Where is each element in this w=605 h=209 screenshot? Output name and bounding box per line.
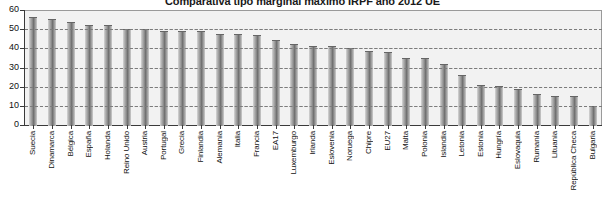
x-axis-category-label: EU27	[384, 131, 392, 151]
bar	[290, 44, 298, 126]
y-axis-tick-label: 20	[0, 82, 19, 91]
x-axis-tick-mark	[164, 125, 165, 129]
bar	[328, 46, 336, 126]
x-axis-category-label: República Checa	[570, 131, 578, 190]
x-axis-category-label: Portugal	[160, 131, 168, 160]
x-axis-category-label: Rumanía	[533, 131, 541, 163]
x-axis-tick-mark	[89, 125, 90, 129]
x-axis-category-label: Bulgaria	[589, 131, 597, 160]
bar	[570, 96, 578, 126]
bar	[123, 29, 131, 126]
x-axis-category-label: España	[85, 131, 93, 158]
x-axis-tick-mark	[444, 125, 445, 129]
x-axis-category-label: Lituania	[551, 131, 559, 158]
x-axis-category-label: Noruega	[346, 131, 354, 161]
bar	[216, 34, 224, 126]
bar	[514, 89, 522, 126]
bars-series	[24, 10, 602, 126]
bar	[421, 58, 429, 126]
x-axis-category-label: Eslovaquia	[514, 131, 522, 169]
bar	[253, 35, 261, 126]
bar	[533, 94, 541, 126]
x-axis-tick-mark	[127, 125, 128, 129]
y-axis-tick-label: 0	[0, 120, 19, 129]
x-axis-category-label: Luxemburgo	[290, 131, 298, 174]
x-axis-tick-mark	[238, 125, 239, 129]
x-axis-category-label: Holanda	[104, 131, 112, 160]
bar	[197, 31, 205, 126]
y-axis-tick-label: 10	[0, 101, 19, 110]
x-axis-category-label: Hungría	[495, 131, 503, 159]
x-axis-category-label: Francia	[253, 131, 261, 157]
bar	[48, 19, 56, 126]
y-axis-tick-label: 30	[0, 63, 19, 72]
bar	[495, 86, 503, 126]
bar	[309, 46, 317, 126]
x-axis-tick-mark	[555, 125, 556, 129]
bar	[234, 34, 242, 126]
x-axis-category-label: Estonia	[477, 131, 485, 157]
x-axis-category-label: Letonia	[458, 131, 466, 157]
chart-title: Comparativa tipo marginal máximo IRPF añ…	[0, 0, 605, 7]
x-axis-category-label: Grecia	[178, 131, 186, 154]
x-axis-category-label: EA17	[272, 131, 280, 150]
x-axis-tick-mark	[294, 125, 295, 129]
x-axis-tick-mark	[108, 125, 109, 129]
chart-container: Comparativa tipo marginal máximo IRPF añ…	[0, 0, 605, 209]
x-axis-category-label: Irlanda	[309, 131, 317, 155]
x-axis-tick-mark	[145, 125, 146, 129]
x-axis-tick-mark	[257, 125, 258, 129]
x-axis-tick-mark	[201, 125, 202, 129]
y-axis-tick-label: 50	[0, 24, 19, 33]
x-axis-category-label: Dinamarca	[48, 131, 56, 169]
bar	[458, 75, 466, 126]
x-axis-tick-mark	[425, 125, 426, 129]
bar	[551, 96, 559, 126]
bar	[384, 52, 392, 126]
bar	[67, 22, 75, 126]
bar	[272, 40, 280, 126]
x-axis-tick-mark	[71, 125, 72, 129]
bar	[589, 106, 597, 126]
bar	[178, 31, 186, 126]
x-axis-tick-mark	[220, 125, 221, 129]
x-axis-category-label: Finlandia	[197, 131, 205, 163]
bar	[402, 58, 410, 126]
x-axis-category-label: Italia	[234, 131, 242, 147]
x-axis-tick-mark	[350, 125, 351, 129]
x-axis-tick-mark	[406, 125, 407, 129]
x-axis-category-label: Reino Unido	[123, 131, 131, 174]
x-axis-category-label: Austria	[141, 131, 149, 155]
x-axis-category-label: Alemania	[216, 131, 224, 164]
x-axis-tick-mark	[276, 125, 277, 129]
bar	[477, 85, 485, 126]
x-axis-category-label: Eslovenia	[328, 131, 336, 165]
x-axis-tick-mark	[182, 125, 183, 129]
x-axis-category-label: Chipre	[365, 131, 373, 154]
x-axis-tick-mark	[52, 125, 53, 129]
bar	[440, 64, 448, 126]
bar	[85, 25, 93, 126]
x-axis-tick-mark	[574, 125, 575, 129]
x-axis-category-label: Malta	[402, 131, 410, 150]
bar	[104, 25, 112, 126]
x-axis-tick-mark	[499, 125, 500, 129]
bar	[29, 17, 37, 126]
x-axis-tick-mark	[388, 125, 389, 129]
bar	[141, 29, 149, 126]
x-axis-tick-mark	[313, 125, 314, 129]
x-axis-tick-mark	[33, 125, 34, 129]
y-axis-tick-label: 40	[0, 43, 19, 52]
x-axis-tick-mark	[462, 125, 463, 129]
x-axis-tick-mark	[518, 125, 519, 129]
bar	[365, 51, 373, 126]
x-axis-tick-mark	[537, 125, 538, 129]
x-axis-tick-mark	[332, 125, 333, 129]
x-axis-category-label: Islandia	[440, 131, 448, 158]
y-axis-tick-label: 60	[0, 5, 19, 14]
x-axis-category-label: Bélgica	[67, 131, 75, 157]
x-axis-tick-mark	[481, 125, 482, 129]
x-axis-tick-mark	[593, 125, 594, 129]
x-axis-category-label: Suecia	[29, 131, 37, 155]
x-axis-category-label: Polonia	[421, 131, 429, 157]
